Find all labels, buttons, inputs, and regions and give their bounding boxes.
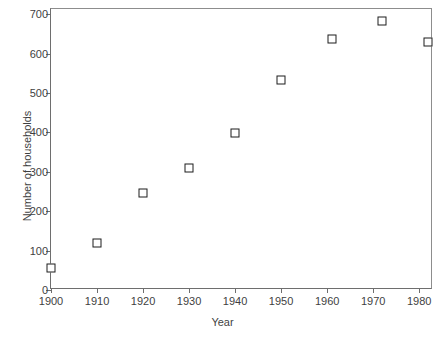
data-point-marker (93, 238, 102, 247)
y-axis-title-host: Number of households (12, 20, 26, 280)
x-tick-label: 1970 (361, 296, 385, 307)
x-tick-label: 1950 (269, 296, 293, 307)
x-tick-mark (97, 288, 98, 293)
x-tick-mark (281, 288, 282, 293)
x-tick-label: 1960 (315, 296, 339, 307)
data-point-marker (185, 163, 194, 172)
data-point-marker (424, 38, 433, 47)
x-tick-mark (189, 288, 190, 293)
y-tick-label: 100 (30, 245, 48, 256)
x-tick-mark (373, 288, 374, 293)
x-tick-mark (327, 288, 328, 293)
x-tick-mark (419, 288, 420, 293)
x-tick-label: 1930 (177, 296, 201, 307)
x-tick-mark (51, 288, 52, 293)
x-tick-label: 1940 (223, 296, 247, 307)
y-tick-label: 700 (30, 9, 48, 20)
x-tick-mark (235, 288, 236, 293)
data-point-marker (327, 34, 336, 43)
data-point-marker (47, 264, 56, 273)
x-tick-label: 1920 (131, 296, 155, 307)
data-point-marker (277, 75, 286, 84)
y-axis-title: Number of households (21, 86, 33, 246)
data-point-marker (139, 189, 148, 198)
data-point-marker (231, 129, 240, 138)
y-tick-label: 0 (42, 285, 48, 296)
scatter-chart-figure: 0100200300400500600700190019101920193019… (0, 0, 445, 337)
x-tick-label: 1900 (39, 296, 63, 307)
x-axis-title: Year (0, 316, 445, 328)
x-tick-label: 1910 (85, 296, 109, 307)
x-tick-mark (143, 288, 144, 293)
x-tick-label: 1980 (407, 296, 431, 307)
plot-area: 0100200300400500600700190019101920193019… (50, 8, 432, 289)
y-tick-label: 600 (30, 48, 48, 59)
data-point-marker (378, 16, 387, 25)
